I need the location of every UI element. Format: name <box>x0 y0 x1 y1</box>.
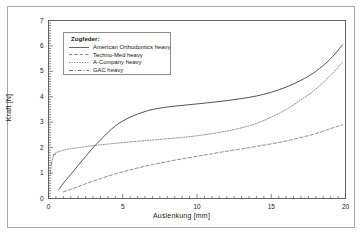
legend-line-swatch <box>68 67 90 74</box>
legend-line-swatch <box>68 59 90 66</box>
legend-title: Zugfeder: <box>71 36 166 42</box>
x-tick-label: 20 <box>336 203 356 210</box>
legend: Zugfeder: American Orthodontics heavyTec… <box>63 32 171 75</box>
y-tick-label: 6 <box>30 42 44 49</box>
x-tick-label: 5 <box>113 203 133 210</box>
legend-item: GAC heavy <box>68 66 166 74</box>
series-line-gac-heavy <box>50 154 56 174</box>
y-tick-label: 7 <box>30 17 44 24</box>
plot-canvas <box>0 0 363 236</box>
legend-line-swatch <box>68 51 90 58</box>
legend-item: Techno-Med heavy <box>68 51 166 59</box>
y-tick-label: 2 <box>30 144 44 151</box>
legend-item: American Orthodontics heavy <box>68 44 166 52</box>
y-tick-label: 0 <box>30 195 44 202</box>
x-axis-title: Auslenkung [mm] <box>0 212 363 219</box>
legend-item-label: Techno-Med heavy <box>93 52 143 58</box>
x-tick-label: 10 <box>187 203 207 210</box>
y-axis-title: Kraft [N] <box>5 78 12 138</box>
chart-figure: Auslenkung [mm] Kraft [N] Zugfeder: Amer… <box>0 0 363 236</box>
legend-item-label: A-Company heavy <box>93 59 141 65</box>
x-tick-label: 0 <box>39 203 59 210</box>
legend-items: American Orthodontics heavyTechno-Med he… <box>68 44 166 74</box>
legend-item-label: American Orthodontics heavy <box>93 44 170 50</box>
legend-item-label: GAC heavy <box>93 67 123 73</box>
y-tick-label: 1 <box>30 169 44 176</box>
legend-item: A-Company heavy <box>68 59 166 67</box>
series-line-a-company-heavy <box>53 62 343 154</box>
y-tick-label: 5 <box>30 67 44 74</box>
y-tick-label: 3 <box>30 118 44 125</box>
legend-line-swatch <box>68 44 90 51</box>
y-tick-label: 4 <box>30 93 44 100</box>
x-tick-label: 15 <box>261 203 281 210</box>
